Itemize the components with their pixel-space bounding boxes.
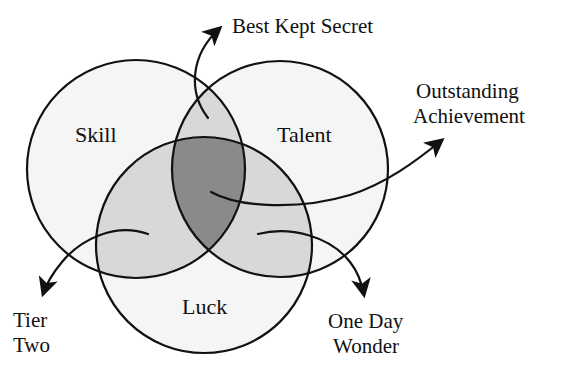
best-kept-secret-label: Best Kept Secret (232, 14, 373, 38)
talent-label: Talent (277, 122, 332, 147)
tier-label: Tier (13, 308, 47, 332)
wonder-label: Wonder (333, 334, 399, 358)
outstanding-label: Outstanding (416, 79, 519, 103)
luck-label: Luck (182, 294, 227, 319)
achievement-label: Achievement (413, 104, 525, 128)
venn-diagram: Skill Talent Luck Best Kept Secret Outst… (0, 0, 565, 374)
skill-label: Skill (75, 122, 117, 147)
two-label: Two (13, 333, 50, 357)
one-day-label: One Day (328, 309, 404, 333)
